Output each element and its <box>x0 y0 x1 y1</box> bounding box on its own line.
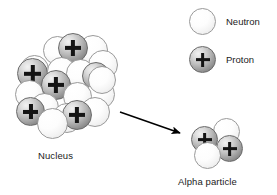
neutron-sphere-icon <box>189 8 216 35</box>
proton-sphere-icon <box>189 46 216 73</box>
legend-item-label-neutron: Neutron <box>226 16 260 27</box>
alpha-decay-diagram: Nucleus Alpha particle Neutron Proton <box>0 0 277 195</box>
nucleus-particle-neutron <box>37 108 68 139</box>
legend-item-label-proton: Proton <box>226 54 254 65</box>
plus-icon <box>190 47 215 72</box>
nucleus-label: Nucleus <box>38 150 73 161</box>
nucleus-particle-neutron <box>88 66 116 94</box>
alpha-particle-label: Alpha particle <box>178 176 237 187</box>
alpha-particle-neutron <box>194 142 221 169</box>
